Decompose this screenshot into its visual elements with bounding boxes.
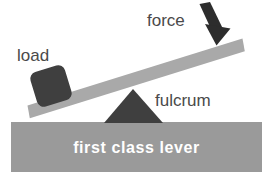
force-label: force <box>147 11 185 31</box>
fulcrum-label: fulcrum <box>155 91 211 111</box>
load-label: load <box>17 46 49 66</box>
down-arrow-icon <box>200 2 231 46</box>
first-class-lever-diagram: load force fulcrum first class lever <box>0 0 275 179</box>
diagram-title: first class lever <box>11 139 262 157</box>
